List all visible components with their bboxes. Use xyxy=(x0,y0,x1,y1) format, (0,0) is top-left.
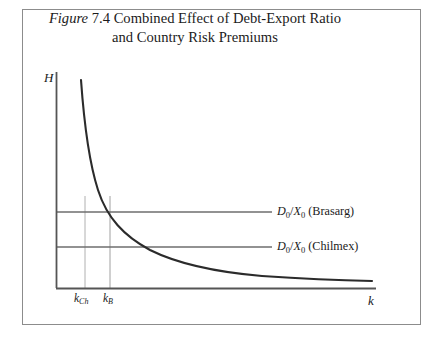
chilmex-denominator: X xyxy=(293,239,300,253)
x-tick-label-k-b: kB xyxy=(103,293,113,306)
x-axis-label: k xyxy=(368,294,374,307)
y-axis-label: H xyxy=(44,71,53,84)
brasarg-country: (Brasarg) xyxy=(308,204,354,218)
series-label-chilmex: D0/X0 (Chilmex) xyxy=(277,240,358,254)
chilmex-denominator-sub: 0 xyxy=(301,245,305,255)
brasarg-denominator: X xyxy=(293,204,300,218)
series-label-brasarg: D0/X0 (Brasarg) xyxy=(277,205,354,219)
chart-plot-area xyxy=(0,0,442,340)
tick-k-ch-subscript: Ch xyxy=(79,297,88,306)
tick-k-b-subscript: B xyxy=(108,297,113,306)
chilmex-numerator: D xyxy=(277,239,286,253)
brasarg-denominator-sub: 0 xyxy=(301,210,305,220)
chilmex-country: (Chilmex) xyxy=(308,239,358,253)
x-tick-label-k-ch: kCh xyxy=(74,293,89,306)
brasarg-numerator: D xyxy=(277,204,286,218)
